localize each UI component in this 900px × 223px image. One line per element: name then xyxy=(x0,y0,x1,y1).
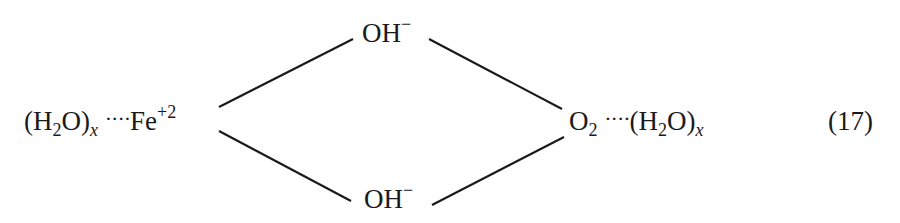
iron-symbol: Fe xyxy=(130,106,157,136)
hydroxide-charge: − xyxy=(401,14,411,34)
h2-subscript: 2 xyxy=(53,120,62,140)
bond-bottom-o2 xyxy=(432,137,564,205)
oxygen-symbol: O xyxy=(569,106,589,136)
water-open: (H xyxy=(630,106,659,136)
weak-bond-dots: ···· xyxy=(604,106,629,131)
iron-charge: +2 xyxy=(157,102,176,122)
bridge-bottom: OH− xyxy=(364,186,413,213)
water-open: (H xyxy=(24,106,53,136)
equation-number: (17) xyxy=(828,108,873,135)
x-subscript: x xyxy=(696,120,704,140)
o2-subscript: 2 xyxy=(589,120,598,140)
water-close: O) xyxy=(62,106,91,136)
hydroxide-label: OH xyxy=(364,184,403,214)
right-complex: O2 ····(H2O)x xyxy=(569,108,704,135)
bond-fe-top xyxy=(219,39,353,107)
bond-fe-bottom xyxy=(219,131,351,201)
hydroxide-label: OH xyxy=(362,18,401,48)
weak-bond-dots: ···· xyxy=(105,106,130,131)
water-close: O) xyxy=(667,106,696,136)
x-subscript: x xyxy=(90,120,98,140)
h2-subscript: 2 xyxy=(658,120,667,140)
bond-top-o2 xyxy=(429,39,562,109)
bridge-top: OH− xyxy=(362,20,411,47)
hydroxide-charge: − xyxy=(403,180,413,200)
left-complex: (H2O)x ····Fe+2 xyxy=(24,108,176,135)
